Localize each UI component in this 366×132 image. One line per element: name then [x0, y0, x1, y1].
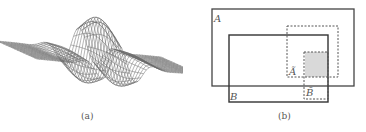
label-b-tilde: B̃: [305, 87, 313, 98]
mesh-line: [20, 20, 183, 86]
panel-a-surface-plot: (a): [0, 0, 183, 132]
caption-a: (a): [81, 111, 93, 121]
rect-a: [212, 9, 354, 86]
label-a-tilde: Ã: [288, 66, 296, 77]
panel-b-rectangle-diagram: A B Ã B̃ (b): [183, 0, 366, 132]
label-b: B: [229, 91, 237, 102]
label-a: A: [213, 13, 221, 24]
wave-surface-plot: [0, 0, 183, 110]
shaded-intersection: [305, 52, 328, 77]
caption-b: (b): [278, 111, 291, 121]
surface-mesh: [0, 17, 183, 86]
rectangle-diagram: A B Ã B̃: [183, 0, 366, 110]
